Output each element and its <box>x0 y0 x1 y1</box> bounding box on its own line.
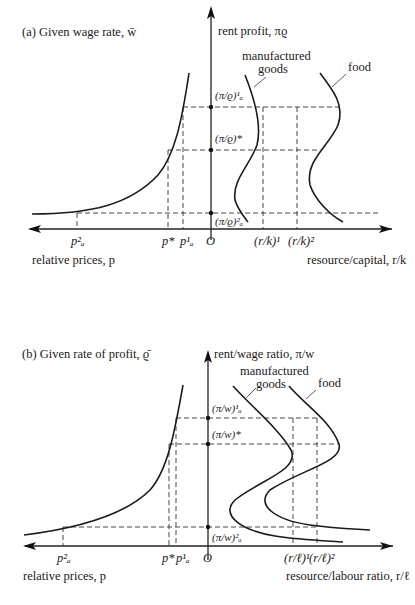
panel-a-leader-food <box>332 74 346 87</box>
panel-b-label-food: food <box>318 376 342 390</box>
panel-b-dot-upper <box>206 416 210 420</box>
panel-a-dot-lower <box>209 211 213 215</box>
panel-b-tick-pa1: p¹ₐ <box>175 551 190 565</box>
panel-a-y-axis-label: rent profit, πϱ <box>218 24 287 38</box>
panel-a-x-right-label: resource/capital, r/k <box>307 253 407 267</box>
panel-b-label-manufactured: manufactured <box>240 364 309 378</box>
panel-a-dot-upper <box>209 105 213 109</box>
panel-b-food-curve <box>265 386 370 530</box>
panel-a: (a) Given wage rate, w̄ rent profit, πϱ … <box>22 6 407 267</box>
panel-a-tick-pstar: p* <box>161 234 175 248</box>
panel-b-label-level-upper: (π/w)¹ₐ <box>212 402 242 415</box>
panel-a-label-manufactured: manufactured <box>242 49 311 63</box>
panel-b: (b) Given rate of profit, ϱ̄ rent/wage r… <box>22 347 410 583</box>
panel-b-title: (b) Given rate of profit, ϱ̄ <box>22 347 151 361</box>
panel-b-manufactured-curve <box>230 386 343 542</box>
panel-a-tick-rk1: (r/k)¹ <box>254 234 280 248</box>
panel-a-tick-pa2: p²ₐ <box>70 234 85 248</box>
panel-b-leader-manufactured <box>246 388 256 398</box>
panel-b-tick-pstar: p* <box>161 551 175 565</box>
panel-b-price-curve <box>24 385 183 535</box>
panel-b-x-left-label: relative prices, p <box>23 569 106 583</box>
panel-b-label-level-star: (π/w)* <box>212 428 241 441</box>
panel-b-y-axis-label: rent/wage ratio, π/w <box>214 347 314 361</box>
panel-a-tick-pa1: p¹ₐ <box>179 234 194 248</box>
panel-b-label-level-lower: (π/w)²ₐ <box>212 531 242 544</box>
panel-b-label-goods: goods <box>256 377 286 391</box>
panel-a-label-level-star: (π/ϱ)* <box>215 132 242 145</box>
panel-b-tick-rl2: (r/ℓ)² <box>309 551 335 565</box>
panel-a-x-left-label: relative prices, p <box>32 253 115 267</box>
diagram-canvas: (a) Given wage rate, w̄ rent profit, πϱ … <box>0 0 415 605</box>
panel-a-tick-rk2: (r/k)² <box>288 234 314 248</box>
panel-b-dot-star <box>206 442 210 446</box>
panel-b-tick-pa2: p²ₐ <box>56 551 71 565</box>
panel-b-tick-rl1: (r/ℓ)¹ <box>284 551 310 565</box>
panel-a-food-curve <box>309 73 343 222</box>
panel-a-label-level-upper: (π/ϱ)¹ₐ <box>215 89 243 102</box>
panel-b-leader-food <box>306 390 316 399</box>
panel-b-dot-lower <box>206 525 210 529</box>
panel-a-leader-manufactured <box>254 77 266 87</box>
panel-a-label-level-lower: (π/ϱ)²ₐ <box>215 215 243 228</box>
panel-a-title: (a) Given wage rate, w̄ <box>22 25 136 39</box>
panel-b-x-right-label: resource/labour ratio, r/ℓ <box>286 569 410 583</box>
panel-a-price-curve <box>32 73 189 214</box>
panel-a-origin: O <box>206 234 215 248</box>
panel-a-label-goods: goods <box>258 62 288 76</box>
panel-a-dot-star <box>209 148 213 152</box>
panel-b-origin: O <box>203 551 212 565</box>
panel-a-label-food: food <box>348 60 372 74</box>
